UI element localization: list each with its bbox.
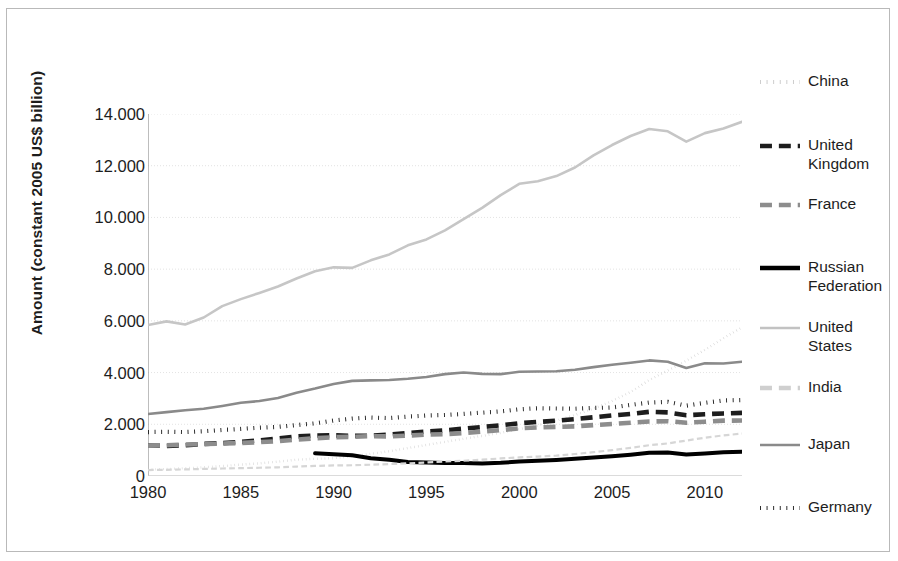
legend-swatch-icon bbox=[759, 321, 801, 335]
legend-item[interactable]: United States bbox=[759, 317, 897, 355]
y-axis-title: Amount (constant 2005 US$ billion) bbox=[28, 23, 46, 383]
x-axis-tick-labels: 1980198519901995200020052010 bbox=[148, 483, 742, 511]
legend-swatch-icon bbox=[759, 501, 801, 515]
y-tick-label: 4.000 bbox=[73, 363, 145, 382]
y-tick-label: 6.000 bbox=[73, 311, 145, 330]
series-line-united-states bbox=[148, 122, 742, 325]
y-tick-label: 12.000 bbox=[73, 156, 145, 175]
legend-item[interactable]: Japan bbox=[759, 434, 897, 453]
x-tick-label: 1995 bbox=[408, 483, 445, 502]
y-tick-label: 14.000 bbox=[73, 105, 145, 124]
x-tick-label: 2010 bbox=[687, 483, 724, 502]
y-tick-label: 8.000 bbox=[73, 260, 145, 279]
legend-label: India bbox=[808, 377, 842, 396]
x-tick-label: 2000 bbox=[501, 483, 538, 502]
legend-label: United States bbox=[808, 317, 853, 355]
series-line-japan bbox=[148, 360, 742, 414]
x-tick-label: 1985 bbox=[222, 483, 259, 502]
plot-area bbox=[148, 114, 742, 476]
plot-svg bbox=[148, 114, 742, 476]
legend-item[interactable]: Russian Federation bbox=[759, 257, 897, 295]
series-line-united-kingdom bbox=[148, 412, 742, 446]
legend-swatch-icon bbox=[759, 261, 801, 275]
legend-swatch-icon bbox=[759, 198, 801, 212]
legend-label: China bbox=[808, 71, 849, 90]
x-tick-label: 1980 bbox=[130, 483, 167, 502]
legend-label: Japan bbox=[808, 434, 850, 453]
legend-label: United Kingdom bbox=[808, 135, 869, 173]
legend-swatch-icon bbox=[759, 381, 801, 395]
chart-frame: Amount (constant 2005 US$ billion) 02.00… bbox=[6, 8, 890, 552]
legend-item[interactable]: United Kingdom bbox=[759, 135, 897, 173]
legend-label: Germany bbox=[808, 497, 872, 516]
legend-swatch-icon bbox=[759, 139, 801, 153]
y-tick-label: 2.000 bbox=[73, 415, 145, 434]
legend-item[interactable]: India bbox=[759, 377, 897, 396]
legend-item[interactable]: France bbox=[759, 194, 897, 213]
y-axis-tick-labels: 02.0004.0006.0008.00010.00012.00014.000 bbox=[65, 114, 145, 476]
legend-item[interactable]: Germany bbox=[759, 497, 897, 516]
x-tick-label: 1990 bbox=[315, 483, 352, 502]
legend-swatch-icon bbox=[759, 75, 801, 89]
legend-label: France bbox=[808, 194, 856, 213]
series-line-china bbox=[148, 327, 742, 469]
y-tick-label: 10.000 bbox=[73, 208, 145, 227]
legend-item[interactable]: China bbox=[759, 71, 897, 90]
legend-swatch-icon bbox=[759, 438, 801, 452]
chart-legend: ChinaUnited KingdomFranceRussian Federat… bbox=[759, 49, 897, 519]
legend-label: Russian Federation bbox=[808, 257, 882, 295]
x-tick-label: 2005 bbox=[594, 483, 631, 502]
series-line-germany bbox=[148, 400, 742, 432]
